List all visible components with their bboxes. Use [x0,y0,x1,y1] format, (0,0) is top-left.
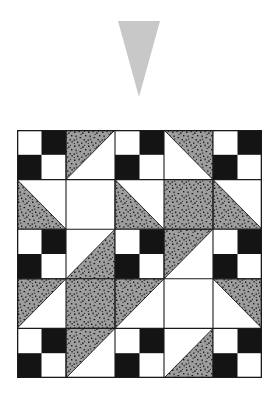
quilt-block-diagram [17,130,262,378]
checker-square-black [42,130,67,155]
checker-square-black [140,229,165,254]
triangle-down-icon [118,21,160,97]
quilt-cell-gray [164,180,213,230]
checker-square-black [140,328,165,353]
checker-square-black [213,155,238,180]
quilt-cell-white [164,279,213,329]
checker-square-black [17,353,42,378]
checker-square-black [213,353,238,378]
checker-square-black [238,328,263,353]
checker-square-black [115,155,140,180]
diagram-title: Quilt Block Layout Diagram [0,0,1,1]
triangle-down-shape [118,21,160,97]
checker-square-black [238,229,263,254]
quilt-grid-svg [17,130,262,378]
checker-square-black [42,229,67,254]
checker-square-black [238,130,263,155]
quilt-cell-gray [66,279,115,329]
checker-square-black [140,130,165,155]
checker-square-black [115,353,140,378]
checker-square-black [42,328,67,353]
quilt-cell-white [66,180,115,230]
checker-square-black [213,254,238,279]
checker-square-black [115,254,140,279]
checker-square-black [17,155,42,180]
checker-square-black [17,254,42,279]
diagram-canvas: Quilt Block Layout Diagram [0,0,277,413]
